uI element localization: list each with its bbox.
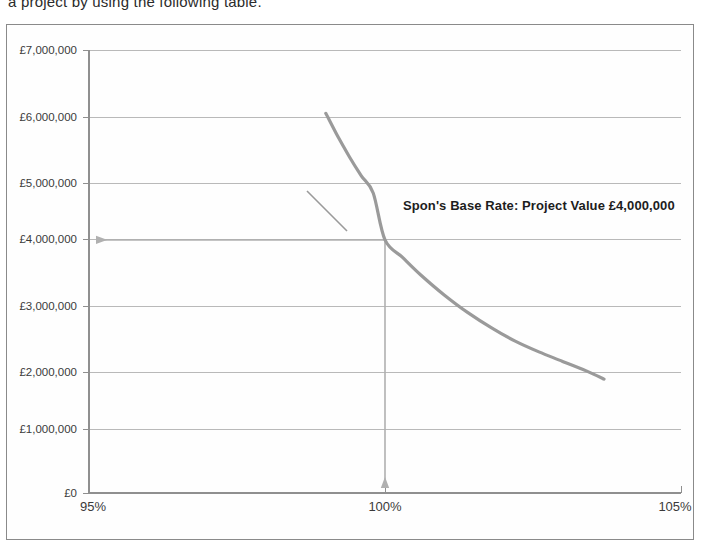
y-tick-label-0: £0 [64, 487, 77, 499]
y-tick-label-3000000: £3,000,000 [19, 300, 77, 312]
y-tick-label-2000000: £2,000,000 [19, 366, 77, 378]
x-tick-label-105: 105% [658, 499, 692, 514]
x-tick-label-100: 100% [368, 499, 402, 514]
y-tick-label-4000000: £4,000,000 [19, 233, 77, 245]
base-rate-marker [97, 240, 385, 487]
x-axis-labels: 95% 100% 105% [80, 499, 692, 514]
y-tick-label-5000000: £5,000,000 [19, 177, 77, 189]
document-body-text: a project by using the following table. [8, 0, 262, 10]
y-axis-labels: £7,000,000 £6,000,000 £5,000,000 £4,000,… [19, 44, 77, 499]
y-axis [83, 50, 89, 493]
annotation-leader-line [307, 191, 347, 231]
annotation-text: Spon's Base Rate: Project Value £4,000,0… [403, 198, 675, 213]
chart-figure-frame: £7,000,000 £6,000,000 £5,000,000 £4,000,… [6, 24, 694, 540]
x-axis [89, 486, 681, 493]
y-tick-label-1000000: £1,000,000 [19, 423, 77, 435]
y-tick-label-6000000: £6,000,000 [19, 111, 77, 123]
x-tick-label-95: 95% [80, 499, 106, 514]
y-tick-label-7000000: £7,000,000 [19, 44, 77, 56]
project-value-chart: £7,000,000 £6,000,000 £5,000,000 £4,000,… [7, 25, 693, 539]
base-rate-annotation: Spon's Base Rate: Project Value £4,000,0… [307, 191, 675, 231]
project-value-curve [326, 113, 604, 379]
